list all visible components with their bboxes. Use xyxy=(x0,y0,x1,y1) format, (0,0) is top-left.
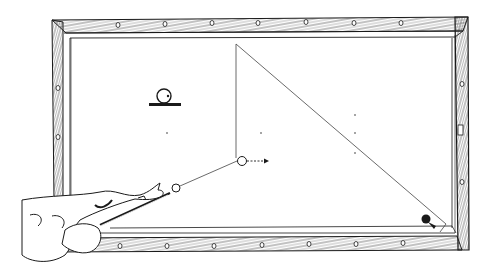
table-frame xyxy=(52,17,469,252)
left-rail xyxy=(52,20,63,200)
cue-ball xyxy=(172,184,180,192)
billiards-diagram xyxy=(0,0,489,275)
cushion-outline xyxy=(64,31,463,238)
pocket-marker xyxy=(458,125,463,135)
table-spots xyxy=(166,114,356,154)
target-ball xyxy=(422,215,431,224)
english-spin-symbol xyxy=(149,89,181,106)
arrow-head-icon xyxy=(264,159,269,164)
bank-path xyxy=(236,44,446,232)
top-rail xyxy=(52,17,468,33)
object-ball xyxy=(238,157,247,166)
rail-diamonds xyxy=(56,20,464,249)
ball-direction-icon xyxy=(428,222,436,229)
shot-path xyxy=(180,161,237,186)
